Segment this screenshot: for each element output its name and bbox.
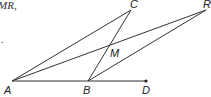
segment-br	[88, 10, 206, 81]
segment-ac	[12, 10, 131, 81]
fragment-text-mid: .	[1, 33, 4, 45]
segment-ar	[12, 10, 206, 81]
label-c: C	[130, 0, 138, 10]
label-r: R	[203, 0, 211, 10]
point-d-dot	[144, 79, 147, 82]
label-b: B	[83, 84, 90, 96]
label-a: A	[3, 84, 11, 96]
fragment-text-top: MR,	[0, 0, 17, 11]
label-d: D	[142, 84, 150, 96]
label-m: M	[110, 47, 120, 59]
geometry-figure: MR, . C R M A B D	[0, 0, 211, 97]
